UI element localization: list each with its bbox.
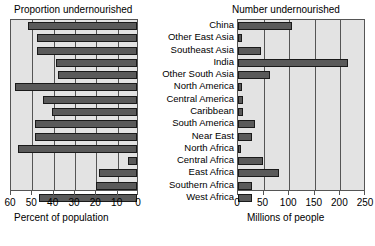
category-label: Near East (139, 130, 236, 142)
right-axis-tick-labels: 050100150200250 (237, 196, 365, 210)
axis-tick-label: 250 (357, 196, 374, 209)
bar (238, 71, 270, 79)
category-label: Caribbean (139, 105, 236, 117)
bar-row (238, 32, 364, 44)
category-label: North America (139, 80, 236, 92)
bar-row (11, 20, 137, 32)
bar-row (11, 155, 137, 167)
category-label: Central Africa (139, 154, 236, 166)
category-label: Southeast Asia (139, 44, 236, 56)
left-panel-title: Proportion undernourished (14, 4, 132, 16)
axis-tick-label: 10 (111, 196, 122, 209)
bar-row (11, 45, 137, 57)
axis-tick (10, 191, 11, 195)
category-label: China (139, 19, 236, 31)
category-label: Other East Asia (139, 31, 236, 43)
category-label: West Africa (139, 191, 236, 203)
axis-tick (288, 191, 289, 195)
bar-row (238, 45, 364, 57)
bar (18, 145, 137, 153)
bar-row (11, 81, 137, 93)
bar (238, 182, 252, 190)
bar-row (238, 106, 364, 118)
bar (238, 157, 263, 165)
right-axis-title: Millions of people (247, 211, 324, 224)
bar-row (11, 69, 137, 81)
undernourishment-paired-bar-chart: Proportion undernourished Number underno… (0, 0, 375, 246)
bar (238, 96, 243, 104)
category-label: India (139, 56, 236, 68)
bar (35, 120, 137, 128)
category-label: North Africa (139, 142, 236, 154)
bar-row (11, 106, 137, 118)
axis-tick (117, 191, 118, 195)
bar-row (11, 131, 137, 143)
bar (238, 133, 252, 141)
left-bar-series (11, 20, 137, 190)
bar-row (238, 118, 364, 130)
bar (37, 47, 137, 55)
axis-tick-label: 30 (68, 196, 79, 209)
bar-row (11, 32, 137, 44)
bar-row (11, 118, 137, 130)
bar-row (238, 143, 364, 155)
axis-tick (53, 191, 54, 195)
axis-tick (237, 191, 238, 195)
bar (238, 47, 261, 55)
axis-tick-label: 40 (47, 196, 58, 209)
bar (52, 108, 137, 116)
bar-row (238, 81, 364, 93)
bar (99, 169, 137, 177)
axis-tick (364, 191, 365, 195)
bar (238, 120, 255, 128)
bar (28, 22, 137, 30)
axis-tick (263, 191, 264, 195)
axis-tick (137, 191, 138, 195)
bar-row (11, 57, 137, 69)
axis-tick-label: 60 (4, 196, 15, 209)
axis-tick-label: 0 (135, 196, 141, 209)
bar-row (238, 94, 364, 106)
axis-tick-label: 0 (234, 196, 240, 209)
bar (43, 96, 137, 104)
right-bar-series (238, 20, 364, 190)
bar-row (238, 20, 364, 32)
category-label: Southern Africa (139, 179, 236, 191)
bar (128, 157, 137, 165)
bar (238, 22, 292, 30)
bar (58, 71, 137, 79)
category-label: Central America (139, 93, 236, 105)
bar (238, 34, 242, 42)
axis-tick (339, 191, 340, 195)
right-plot-area (237, 19, 365, 191)
axis-tick-label: 100 (280, 196, 297, 209)
axis-tick (95, 191, 96, 195)
axis-tick-label: 50 (257, 196, 268, 209)
bar-row (238, 155, 364, 167)
bar (238, 59, 348, 67)
bar-row (238, 131, 364, 143)
category-label: South America (139, 117, 236, 129)
axis-tick-label: 150 (305, 196, 322, 209)
category-label-column: ChinaOther East AsiaSoutheast AsiaIndiaO… (139, 19, 236, 191)
bar (15, 83, 137, 91)
bar (238, 169, 279, 177)
axis-tick (314, 191, 315, 195)
axis-tick (74, 191, 75, 195)
axis-tick (31, 191, 32, 195)
axis-tick-label: 50 (26, 196, 37, 209)
category-label: East Africa (139, 166, 236, 178)
bar-row (11, 143, 137, 155)
bar (56, 59, 137, 67)
bar (37, 34, 137, 42)
bar-row (238, 167, 364, 179)
bar-row (11, 94, 137, 106)
bar-row (238, 57, 364, 69)
bar (35, 133, 137, 141)
bar-row (11, 167, 137, 179)
left-plot-area (10, 19, 138, 191)
category-label: Other South Asia (139, 68, 236, 80)
axis-tick-label: 200 (331, 196, 348, 209)
bar (238, 145, 241, 153)
bar (96, 182, 137, 190)
